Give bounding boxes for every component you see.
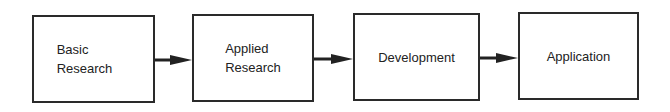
arrow-applied-to-development <box>314 54 353 64</box>
arrow-basic-to-applied <box>155 55 192 65</box>
edges-layer <box>0 0 670 112</box>
arrow-development-to-application <box>480 53 518 63</box>
